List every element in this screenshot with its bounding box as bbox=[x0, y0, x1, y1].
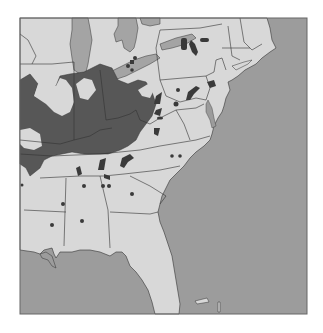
deposit-dot bbox=[50, 223, 54, 227]
deposit-patch bbox=[157, 116, 163, 119]
deposit-dot bbox=[170, 154, 174, 158]
deposit-dot bbox=[82, 184, 86, 188]
deposit-dot bbox=[176, 88, 180, 92]
deposit-dot bbox=[80, 219, 84, 223]
deposit-dot bbox=[130, 192, 134, 196]
island bbox=[218, 302, 220, 312]
deposit-patch bbox=[181, 38, 187, 50]
deposit-dot bbox=[133, 56, 137, 60]
deposit-patch bbox=[200, 38, 209, 42]
map bbox=[0, 0, 323, 333]
deposit-dot bbox=[178, 154, 182, 158]
deposit-dot bbox=[126, 64, 130, 68]
deposit-dot bbox=[174, 102, 179, 107]
deposit-dot bbox=[101, 184, 105, 188]
deposit-dot bbox=[61, 202, 65, 206]
deposit-dot bbox=[130, 60, 134, 64]
deposit-dot bbox=[130, 68, 134, 72]
deposit-dot bbox=[21, 184, 24, 187]
deposit-dot bbox=[107, 184, 111, 188]
